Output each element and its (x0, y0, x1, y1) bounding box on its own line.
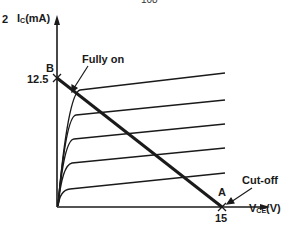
x-axis-arrow-icon (260, 204, 270, 210)
y-axis-arrow-icon (54, 15, 60, 25)
characteristic-curves (58, 73, 225, 206)
curve-3 (58, 124, 225, 206)
cut-off-pointer-icon (227, 188, 252, 204)
curve-5 (58, 73, 225, 206)
characteristics-diagram (0, 0, 298, 236)
curve-2 (58, 148, 225, 206)
fully-on-pointer-icon (72, 66, 88, 92)
